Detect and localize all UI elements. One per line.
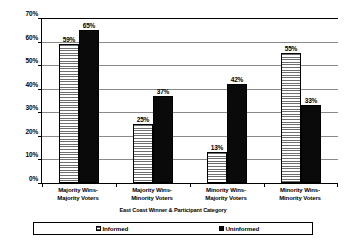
bar-value-label: 33% — [305, 97, 317, 105]
bar-value-label: 25% — [137, 116, 149, 124]
x-category-label-line: Minority Voters — [263, 194, 337, 202]
y-tick-label: 20% — [8, 127, 38, 134]
bar-chart: 70%60%50%40%30%20%10%0% 59%65%25%37%13%4… — [0, 0, 346, 242]
x-category-label-line: Majority Wins- — [41, 186, 115, 194]
chart-legend: InformedUninformed — [33, 222, 313, 235]
bar-uninformed[interactable]: 42% — [227, 84, 247, 183]
bar-value-label: 59% — [63, 36, 75, 44]
bar-uninformed[interactable]: 65% — [79, 30, 99, 183]
y-tick-label: 60% — [8, 33, 38, 40]
x-category-label-line: Majority Voters — [189, 194, 263, 202]
x-category-label-line: Minority Wins- — [189, 186, 263, 194]
legend-swatch-icon — [96, 226, 101, 231]
x-category-label-line: Minority Wins- — [263, 186, 337, 194]
bar-informed[interactable]: 25% — [133, 124, 153, 183]
bar-value-label: 37% — [157, 88, 169, 96]
y-tick-label: 40% — [8, 80, 38, 87]
bar-group: 59%65% — [42, 18, 116, 183]
bar-informed[interactable]: 55% — [281, 53, 301, 183]
x-category-label: Majority Wins-Majority Voters — [41, 186, 115, 202]
bar-value-label: 55% — [285, 45, 297, 53]
bar-uninformed[interactable]: 37% — [153, 96, 173, 183]
legend-swatch-icon — [219, 226, 224, 231]
x-category-label-line: Majority Wins- — [115, 186, 189, 194]
x-category-label: Minority Wins-Minority Voters — [263, 186, 337, 202]
x-category-label-line: Majority Voters — [41, 194, 115, 202]
x-category-label-line: Minority Voters — [115, 194, 189, 202]
bars-layer: 59%65%25%37%13%42%55%33% — [42, 18, 338, 183]
bar-group: 25%37% — [116, 18, 190, 183]
legend-entry[interactable]: Uninformed — [219, 223, 259, 234]
bar-group: 55%33% — [264, 18, 338, 183]
bar-value-label: 65% — [83, 22, 95, 30]
x-category-label: Minority Wins-Majority Voters — [189, 186, 263, 202]
plot-area: 59%65%25%37%13%42%55%33% — [41, 18, 338, 184]
legend-label: Uninformed — [226, 225, 260, 232]
bar-informed[interactable]: 13% — [207, 152, 227, 183]
y-axis-tick-labels: 70%60%50%40%30%20%10%0% — [8, 13, 38, 183]
x-tick-mark — [337, 183, 338, 187]
y-tick-label: 30% — [8, 104, 38, 111]
legend-label: Informed — [103, 225, 129, 232]
y-tick-label: 70% — [8, 10, 38, 17]
x-axis-title: East Coast Winner & Participant Category — [0, 207, 346, 213]
bar-informed[interactable]: 59% — [59, 44, 79, 183]
y-tick-label: 10% — [8, 151, 38, 158]
x-axis-category-labels: Majority Wins-Majority VotersMajority Wi… — [41, 186, 337, 206]
bar-uninformed[interactable]: 33% — [301, 105, 321, 183]
bar-value-label: 42% — [231, 76, 243, 84]
y-tick-label: 0% — [8, 175, 38, 182]
bar-value-label: 13% — [211, 144, 223, 152]
x-category-label: Majority Wins-Minority Voters — [115, 186, 189, 202]
bar-group: 13%42% — [190, 18, 264, 183]
y-tick-label: 50% — [8, 57, 38, 64]
plot-wrapper: 70%60%50%40%30%20%10%0% 59%65%25%37%13%4… — [0, 0, 346, 200]
legend-entry[interactable]: Informed — [96, 223, 128, 234]
